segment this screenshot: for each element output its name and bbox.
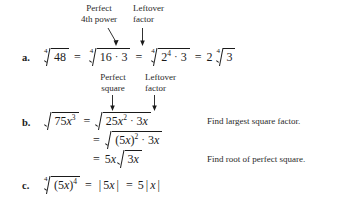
radical-index: 4 bbox=[44, 48, 48, 55]
equals-sign: = bbox=[190, 50, 207, 65]
exponent: 4 bbox=[73, 177, 77, 186]
multiplication-dot: · bbox=[138, 133, 148, 145]
result-2-root4-3: 2 4 3 bbox=[206, 48, 235, 66]
coefficient: 5x bbox=[105, 152, 116, 167]
equals-sign: = bbox=[121, 178, 138, 193]
radicand: 48 bbox=[51, 48, 69, 66]
item-letter-b: b. bbox=[22, 117, 30, 128]
equation-row-b-1: 75x3 = 25x2·3x bbox=[44, 112, 151, 130]
variable-x: x bbox=[125, 133, 130, 147]
radical-sqrt-25x2-times-3x: 25x2·3x bbox=[95, 112, 151, 130]
callout-arrow-vertical-a bbox=[138, 27, 148, 47]
callout-line-1: Perfect bbox=[88, 72, 138, 83]
radicand: (5x)4 bbox=[51, 176, 80, 194]
variable-x: x bbox=[64, 178, 69, 192]
variable-x: x bbox=[154, 133, 159, 147]
radical-sqrt-5x-squared-times-3x: (5x)2·3x bbox=[105, 131, 163, 149]
equals-sign: = bbox=[93, 152, 105, 167]
radicand: 3x bbox=[125, 150, 142, 168]
radical-sign-icon bbox=[105, 131, 113, 149]
equation-row-a: 4 48 = 4 16·3 = 4 24·3 = 2 4 3 bbox=[40, 48, 235, 66]
radical-fourth-root-16-times-3: 4 16·3 bbox=[86, 48, 131, 66]
equals-sign: = bbox=[130, 50, 147, 65]
callout-line-1: Leftover bbox=[133, 3, 185, 14]
note-find-largest-square-factor: Find largest square factor. bbox=[207, 116, 300, 126]
multiplication-dot: · bbox=[112, 50, 122, 62]
item-letter-c: c. bbox=[22, 180, 29, 191]
radical-sqrt-75x3: 75x3 bbox=[44, 112, 79, 130]
radicand: 25x2·3x bbox=[103, 112, 151, 130]
equals-sign: = bbox=[79, 114, 96, 129]
callout-line-1: Leftover bbox=[145, 72, 193, 83]
radical-index: 4 bbox=[90, 48, 94, 55]
equals-sign: = bbox=[69, 50, 86, 65]
equals-sign: = bbox=[80, 178, 97, 193]
radical-index: 4 bbox=[151, 48, 155, 55]
variable-x: x bbox=[143, 114, 148, 128]
radical-sign-icon bbox=[117, 150, 125, 168]
multiplication-dot: · bbox=[171, 50, 181, 62]
radical-sign-icon bbox=[95, 112, 103, 130]
equation-row-b-3: = 5x 3x bbox=[93, 150, 142, 168]
equation-row-c: 4 (5x)4 = |5x| = 5|x| bbox=[40, 176, 162, 194]
callout-label-perfect-square: Perfect square bbox=[88, 72, 138, 93]
abs-bar-right: | bbox=[156, 178, 162, 193]
radical-fourth-root-2pow4-times-3: 4 24·3 bbox=[147, 48, 189, 66]
radical-fourth-root-5x-pow4: 4 (5x)4 bbox=[40, 176, 80, 194]
item-letter-a: a. bbox=[22, 52, 30, 63]
equals-sign: = bbox=[93, 133, 105, 148]
variable-x: x bbox=[111, 152, 116, 166]
callout-arrow-slanted-a bbox=[106, 27, 122, 47]
radicand: (5x)2·3x bbox=[112, 131, 162, 149]
radical-sign-icon bbox=[44, 112, 52, 130]
multiplication-dot: · bbox=[127, 114, 137, 126]
variable-x: x bbox=[134, 152, 139, 166]
radical-fourth-root-48: 4 48 bbox=[40, 48, 69, 66]
callout-line-2: factor bbox=[145, 83, 193, 94]
callout-label-leftover-factor-a: Leftover factor bbox=[133, 3, 185, 24]
radical-index: 4 bbox=[216, 48, 220, 55]
exponent: 3 bbox=[72, 113, 76, 122]
result-5x-sqrt-3x: 5x 3x bbox=[105, 150, 142, 168]
callout-label-leftover-factor-b: Leftover factor bbox=[145, 72, 193, 93]
absolute-value-5x: |5x| bbox=[97, 178, 121, 193]
radical-fourth-root-3: 4 3 bbox=[212, 48, 235, 66]
callout-line-1: Perfect bbox=[68, 3, 130, 14]
radicand: 75x3 bbox=[52, 112, 79, 130]
callout-arrow-vertical-b-right bbox=[150, 94, 160, 112]
radicand: 16·3 bbox=[97, 48, 131, 66]
callout-arrow-vertical-b-left bbox=[108, 94, 118, 112]
callout-line-2: factor bbox=[133, 14, 185, 25]
radicand: 24·3 bbox=[158, 48, 189, 66]
result-5-absolute-value-x: 5|x| bbox=[138, 178, 162, 193]
note-find-root-of-perfect-square: Find root of perfect square. bbox=[207, 154, 305, 164]
radical-index: 4 bbox=[44, 176, 48, 183]
callout-label-perfect-4th-power: Perfect 4th power bbox=[68, 3, 130, 24]
equation-row-b-2: = (5x)2·3x bbox=[93, 131, 162, 149]
radicand: 3 bbox=[223, 48, 235, 66]
callout-line-2: 4th power bbox=[68, 14, 130, 25]
callout-line-2: square bbox=[88, 83, 138, 94]
radical-sqrt-3x: 3x bbox=[117, 150, 142, 168]
